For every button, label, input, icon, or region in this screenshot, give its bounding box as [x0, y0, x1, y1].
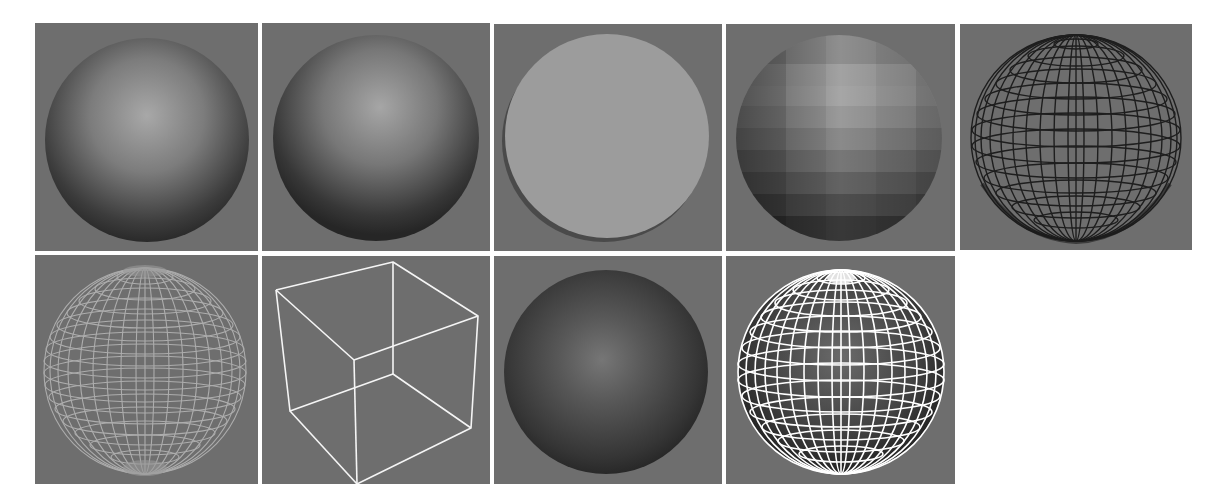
wireframe-sphere-render [960, 24, 1192, 250]
panel-dark-shaded-sphere: Dark shaded sphere [494, 256, 722, 484]
bounding-box-render [262, 256, 490, 484]
render-modes-figure: Smooth shaded sphere Smooth shaded spher… [0, 0, 1227, 503]
panel-smooth-shaded-sphere: Smooth shaded sphere [35, 23, 258, 251]
panel-lit-sphere: Smooth shaded sphere (lit) [262, 23, 490, 251]
smooth-sphere-render [35, 23, 258, 251]
see-through-wireframe-render [35, 255, 258, 484]
wireframe-on-shaded-render [726, 256, 955, 484]
panel-faceted-sphere: Faceted (flat) shaded sphere [726, 24, 955, 251]
panel-bounding-box: Bounding box wireframe [262, 256, 490, 484]
flat-disc-render [494, 24, 722, 251]
panel-wireframe-on-shaded-sphere: Shaded sphere with white wireframe overl… [726, 256, 955, 484]
panel-black-wireframe-sphere: Black wireframe sphere [960, 24, 1192, 250]
faceted-sphere-render [726, 24, 955, 251]
panel-grey-wireframe-sphere: Grey see-through wireframe sphere [35, 255, 258, 484]
lit-sphere-render [262, 23, 490, 251]
panel-constant-shaded-disc: Flat constant-shaded disc [494, 24, 722, 251]
dark-sphere-render [494, 256, 722, 484]
